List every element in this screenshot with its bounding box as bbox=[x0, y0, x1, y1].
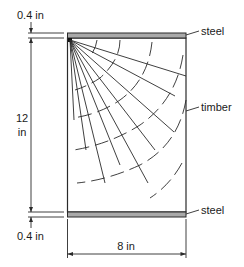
timber-core bbox=[68, 38, 187, 212]
timber-label: timber bbox=[201, 101, 232, 113]
height-dimension bbox=[28, 22, 64, 228]
bottom-steel-plate bbox=[68, 212, 187, 217]
top-steel-plate bbox=[68, 33, 187, 38]
leader-lines bbox=[186, 31, 199, 214]
top-thickness-label: 0.4 in bbox=[17, 9, 44, 21]
width-label: 8 in bbox=[106, 240, 146, 252]
steel-top-label: steel bbox=[201, 25, 224, 37]
height-unit-label: in bbox=[14, 126, 30, 138]
height-value-label: 12 bbox=[14, 112, 30, 124]
width-dimension bbox=[68, 219, 187, 258]
bottom-thickness-label: 0.4 in bbox=[17, 230, 44, 242]
composite-beam-diagram bbox=[0, 0, 244, 267]
steel-bottom-label: steel bbox=[201, 204, 224, 216]
